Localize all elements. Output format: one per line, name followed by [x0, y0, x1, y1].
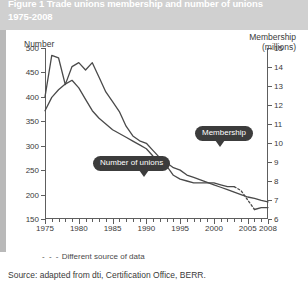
- chart-card: Number Membership (millions) 15020025030…: [10, 30, 302, 248]
- x-axis-minor-tick: [207, 219, 208, 222]
- callout-number-of-unions: Number of unions: [93, 156, 170, 171]
- x-axis-minor-tick: [261, 219, 262, 222]
- callout-membership: Membership: [195, 126, 253, 141]
- y-axis-right-tick-label: 7: [274, 196, 278, 205]
- x-axis-minor-tick: [119, 219, 120, 222]
- x-axis-tick-label: 1980: [70, 224, 88, 233]
- x-axis-minor-tick: [187, 219, 188, 222]
- y-axis-title-right-line1: Membership: [249, 32, 296, 42]
- y-axis-right-tick-label: 10: [274, 139, 283, 148]
- y-axis-right-tick: [268, 67, 272, 68]
- x-axis-minor-tick: [241, 219, 242, 222]
- x-axis-minor-tick: [227, 219, 228, 222]
- x-axis-tick-label: 1975: [36, 224, 54, 233]
- y-axis-right-tick-label: 9: [274, 158, 278, 167]
- x-axis-minor-tick: [72, 219, 73, 222]
- y-axis-left-tick-label: 300: [26, 141, 39, 150]
- x-axis-minor-tick: [52, 219, 53, 222]
- x-axis-minor-tick: [194, 219, 195, 222]
- x-axis-minor-tick: [254, 219, 255, 222]
- x-axis-minor-tick: [167, 219, 168, 222]
- x-axis-minor-tick: [153, 219, 154, 222]
- y-axis-right-tick-label: 15: [274, 44, 283, 53]
- y-axis-right-tick: [268, 143, 272, 144]
- callout-tail-icon: [215, 140, 225, 147]
- x-axis-minor-tick: [140, 219, 141, 222]
- x-axis-minor-tick: [106, 219, 107, 222]
- y-axis-right-tick: [268, 124, 272, 125]
- x-axis-minor-tick: [126, 219, 127, 222]
- callout-membership-label: Membership: [202, 128, 246, 137]
- callout-tail-icon: [139, 170, 149, 177]
- x-axis-tick-label: 2000: [205, 224, 223, 233]
- y-axis-right-tick-label: 8: [274, 177, 278, 186]
- plot-area: 150200250300350400450500 678910111213141…: [45, 48, 268, 219]
- y-axis-left-tick-label: 450: [26, 68, 39, 77]
- series-line-membership-solid-tail: [254, 208, 268, 210]
- y-axis-left-tick-label: 350: [26, 117, 39, 126]
- x-axis-minor-tick: [65, 219, 66, 222]
- x-axis-minor-tick: [221, 219, 222, 222]
- x-axis-minor-tick: [86, 219, 87, 222]
- y-axis-left-tick-label: 500: [26, 44, 39, 53]
- y-axis-right-tick: [268, 48, 272, 49]
- y-axis-left-tick-label: 150: [26, 215, 39, 224]
- x-axis-minor-tick: [173, 219, 174, 222]
- y-axis-right-tick-label: 13: [274, 82, 283, 91]
- x-axis-tick-label: 2008: [259, 224, 277, 233]
- figure-page: Figure 1 Trade unions membership and num…: [0, 0, 308, 288]
- legend-note: - - - Different source of data: [42, 252, 145, 261]
- y-axis-left-tick-label: 400: [26, 92, 39, 101]
- figure-title: Figure 1 Trade unions membership and num…: [8, 0, 304, 23]
- y-axis-right-tick-label: 14: [274, 63, 283, 72]
- x-axis-minor-tick: [92, 219, 93, 222]
- y-axis-right-tick: [268, 200, 272, 201]
- y-axis-right-tick-label: 11: [274, 120, 282, 129]
- x-axis-minor-tick: [200, 219, 201, 222]
- y-axis-right-tick: [268, 181, 272, 182]
- x-axis-tick-label: 2005: [239, 224, 257, 233]
- legend-note-text: Different source of data: [62, 252, 145, 261]
- y-axis-left-tick-label: 200: [26, 190, 39, 199]
- source-note: Source: adapted from dti, Certification …: [8, 270, 206, 280]
- x-axis-minor-tick: [234, 219, 235, 222]
- x-axis-minor-tick: [160, 219, 161, 222]
- x-axis-tick-label: 1990: [137, 224, 155, 233]
- dashed-line-key-icon: - - -: [42, 252, 59, 261]
- x-axis-minor-tick: [59, 219, 60, 222]
- x-axis-minor-tick: [133, 219, 134, 222]
- x-axis-tick-label: 1985: [104, 224, 122, 233]
- page-left-gutter: [0, 0, 6, 252]
- y-axis-left-tick-label: 250: [26, 166, 39, 175]
- y-axis-right-tick-label: 6: [274, 215, 278, 224]
- y-axis-right-tick: [268, 105, 272, 106]
- y-axis-right-tick: [268, 162, 272, 163]
- y-axis-right-tick-label: 12: [274, 101, 283, 110]
- y-axis-right-tick: [268, 86, 272, 87]
- x-axis-tick-label: 1995: [171, 224, 189, 233]
- callout-number-of-unions-label: Number of unions: [100, 158, 163, 167]
- x-axis-minor-tick: [99, 219, 100, 222]
